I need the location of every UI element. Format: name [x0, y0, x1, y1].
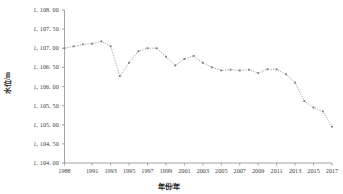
data-point-marker	[64, 47, 66, 49]
data-point-marker	[202, 62, 204, 64]
data-point-marker	[101, 40, 103, 42]
series-water-level	[64, 40, 333, 127]
data-point-marker	[156, 47, 158, 49]
data-point-marker	[128, 62, 130, 64]
data-point-marker	[220, 70, 222, 72]
data-point-marker	[137, 50, 139, 52]
y-tick-label: 1, 107. 00	[0, 44, 59, 51]
data-point-marker	[119, 75, 121, 77]
series-line	[65, 41, 333, 126]
data-point-marker	[91, 43, 93, 45]
data-point-marker	[193, 55, 195, 57]
data-point-marker	[110, 45, 112, 47]
data-point-marker	[303, 100, 305, 102]
x-axis-title: 年份/年	[0, 181, 338, 191]
x-tick-label: 2017	[320, 167, 343, 174]
data-point-marker	[294, 82, 296, 84]
data-point-marker	[267, 68, 269, 70]
data-point-marker	[239, 70, 241, 72]
y-tick-label: 1, 104. 00	[0, 159, 59, 166]
data-point-marker	[331, 126, 333, 128]
data-point-marker	[248, 69, 250, 71]
y-tick-label: 1, 107. 50	[0, 25, 59, 32]
data-point-marker	[276, 68, 278, 70]
data-point-marker	[230, 69, 232, 71]
data-point-marker	[73, 45, 75, 47]
data-point-marker	[82, 44, 84, 46]
y-tick-label: 1, 105. 00	[0, 121, 59, 128]
x-tick-label: 1988	[53, 167, 77, 174]
data-point-marker	[257, 72, 259, 74]
y-tick-label: 1, 104. 50	[0, 140, 59, 147]
data-point-marker	[147, 47, 149, 49]
data-point-marker	[313, 107, 315, 109]
y-axis-title: 水位/m	[2, 60, 12, 106]
data-point-marker	[322, 110, 324, 112]
data-point-marker	[211, 66, 213, 68]
y-tick-label: 1, 108. 00	[0, 6, 59, 13]
data-point-marker	[165, 56, 167, 58]
chart-axes	[65, 10, 333, 163]
data-point-marker	[285, 73, 287, 75]
data-point-marker	[174, 65, 176, 67]
data-point-marker	[184, 58, 186, 60]
